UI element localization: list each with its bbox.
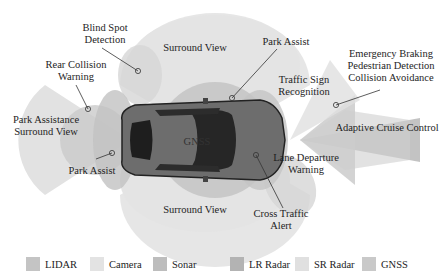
- legend-item-sr-radar: SR Radar: [295, 256, 355, 272]
- label-rear-collision: Rear Collision Warning: [36, 59, 116, 83]
- legend-item-sonar: Sonar: [153, 256, 197, 272]
- lr-radar-swatch-icon: [230, 257, 244, 271]
- legend-item-gnss: GNSS: [362, 256, 408, 272]
- label-cross-traffic: Cross Traffic Alert: [246, 208, 316, 232]
- sr-radar-swatch-icon: [295, 257, 309, 271]
- sonar-swatch-icon: [153, 257, 167, 271]
- label-traffic-sign: Traffic Sign Recognition: [274, 74, 334, 98]
- label-gnss: GNSS: [177, 136, 217, 148]
- label-emergency-braking: Emergency Braking Pedestrian Detection C…: [336, 48, 446, 84]
- legend-item-lidar: LIDAR: [26, 256, 77, 272]
- label-lane-departure: Lane Departure Warning: [266, 152, 346, 176]
- label-surround-view-top: Surround View: [150, 42, 240, 54]
- lidar-swatch-icon: [26, 257, 40, 271]
- legend: LIDAR Camera Sonar LR Radar SR Radar GNS…: [0, 256, 447, 274]
- legend-item-lr-radar: LR Radar: [230, 256, 290, 272]
- label-adaptive-cruise-control: Adaptive Cruise Control: [330, 122, 444, 134]
- label-blind-spot: Blind Spot Detection: [70, 22, 140, 46]
- sensor-coverage-diagram: GNSS Blind Spot Detection Surround View …: [0, 0, 447, 277]
- label-park-assistance-surround: Park Assistance Surround View: [6, 114, 86, 138]
- label-park-assist-front: Park Assist: [251, 36, 321, 48]
- legend-item-camera: Camera: [90, 256, 142, 272]
- label-park-assist-rear: Park Assist: [62, 165, 122, 177]
- camera-swatch-icon: [90, 257, 104, 271]
- gnss-swatch-icon: [362, 257, 376, 271]
- label-surround-view-bottom: Surround View: [150, 204, 240, 216]
